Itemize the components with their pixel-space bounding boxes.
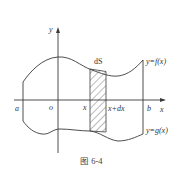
curve-f xyxy=(23,57,143,82)
label-origin: o xyxy=(49,103,53,112)
area-diagram: y x o a b x x+dx dS y=f(x) y=g(x) 图 6-4 xyxy=(0,0,182,177)
label-a: a xyxy=(15,104,19,113)
label-y-axis: y xyxy=(48,25,53,34)
label-dS: dS xyxy=(94,57,102,66)
label-b: b xyxy=(147,104,151,113)
curve-g xyxy=(23,121,143,141)
label-lower-curve: y=g(x) xyxy=(145,126,168,135)
figure-caption: 图 6-4 xyxy=(80,156,103,166)
label-x-plus-dx: x+dx xyxy=(107,104,125,113)
label-x-axis: x xyxy=(159,105,164,114)
hatched-strip-dS xyxy=(90,69,106,132)
x-axis-arrow-icon xyxy=(160,98,166,102)
label-upper-curve: y=f(x) xyxy=(145,57,166,66)
y-axis-arrow-icon xyxy=(56,27,60,33)
label-x: x xyxy=(82,103,87,112)
